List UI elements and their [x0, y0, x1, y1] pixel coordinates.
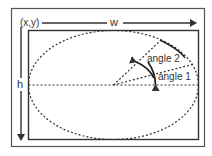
ellipse-arc-diagram: (x,y) w h angle 2 angle 1	[0, 0, 212, 156]
origin-label: (x,y)	[20, 17, 39, 28]
angle2-label: angle 2	[147, 53, 180, 64]
height-label: h	[17, 78, 23, 90]
angle1-label: angle 1	[158, 71, 191, 82]
angle2-arc	[136, 62, 154, 78]
width-label: w	[109, 16, 118, 28]
